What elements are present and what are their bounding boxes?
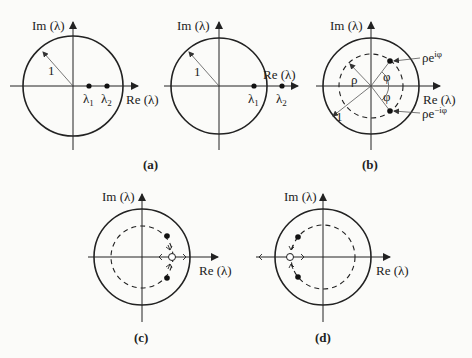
eigenvalue-point bbox=[251, 83, 256, 88]
re-axis-label: Re (λ) bbox=[126, 92, 159, 107]
panel-c: Im (λ) Re (λ) bbox=[88, 189, 232, 322]
re-axis-label: Re (λ) bbox=[199, 263, 232, 278]
im-axis-label: Im (λ) bbox=[284, 189, 317, 204]
eigenvalue-point-upper bbox=[387, 58, 393, 64]
im-axis-label: Im (λ) bbox=[330, 18, 363, 33]
lower-eigenvalue-label: ρe−iφ bbox=[422, 105, 447, 121]
caption-c: (c) bbox=[134, 330, 148, 345]
eigenvalue-point-upper bbox=[295, 234, 301, 240]
lambda1-label: λ1 bbox=[83, 91, 94, 108]
panel-d: Im (λ) Re (λ) bbox=[256, 189, 409, 322]
re-axis-label: Re (λ) bbox=[263, 67, 296, 82]
re-axis-label: Re (λ) bbox=[376, 263, 409, 278]
caption-a: (a) bbox=[143, 157, 158, 172]
pointer-upper bbox=[394, 58, 420, 61]
im-axis-label: Im (λ) bbox=[32, 18, 65, 33]
eigenvalue-point bbox=[86, 83, 91, 88]
lambda2-label: λ2 bbox=[276, 91, 287, 108]
collision-point bbox=[169, 254, 176, 261]
eigenvalue-diagram: 1 Im (λ) Re (λ) λ1 λ2 1 Im (λ) Re (λ) λ1… bbox=[0, 0, 472, 358]
eigenvalue-point-lower bbox=[164, 275, 170, 281]
eigenvalue-point-lower bbox=[387, 108, 393, 114]
panel-a-right: 1 Im (λ) Re (λ) λ1 λ2 bbox=[164, 18, 298, 150]
rho-label: ρ bbox=[351, 72, 358, 87]
radius-label: 1 bbox=[336, 109, 343, 124]
eigenvalue-point bbox=[279, 83, 284, 88]
im-axis-label: Im (λ) bbox=[177, 18, 210, 33]
collision-point bbox=[287, 254, 294, 261]
phi-label-upper: φ bbox=[383, 69, 391, 84]
eigenvalue-point-upper bbox=[164, 233, 170, 239]
lambda2-label: λ2 bbox=[101, 91, 112, 108]
caption-b: (b) bbox=[362, 157, 378, 172]
panel-b: ρ φ φ 1 Im (λ) Re (λ) ρeiφ ρe−iφ bbox=[316, 18, 456, 150]
lambda1-label: λ1 bbox=[248, 91, 259, 108]
eigenvalue-point-lower bbox=[295, 274, 301, 280]
upper-eigenvalue-label: ρeiφ bbox=[422, 49, 442, 65]
caption-d: (d) bbox=[315, 330, 331, 345]
radius-label: 1 bbox=[48, 63, 55, 78]
eigenvalue-point bbox=[104, 83, 109, 88]
im-axis-label: Im (λ) bbox=[102, 189, 135, 204]
pointer-lower bbox=[394, 111, 420, 113]
radius-label: 1 bbox=[194, 64, 201, 79]
panel-a-left: 1 Im (λ) Re (λ) λ1 λ2 bbox=[10, 18, 159, 150]
phi-label-lower: φ bbox=[383, 89, 391, 104]
